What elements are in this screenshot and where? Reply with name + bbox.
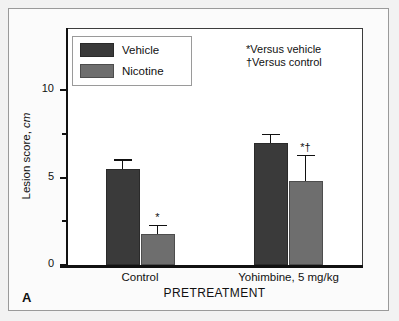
y-axis-unit: cm	[20, 113, 32, 128]
error-bar-cap-vehicle-1	[262, 134, 280, 136]
y-axis-line	[66, 28, 68, 266]
y-tick-5	[60, 177, 67, 179]
x-axis-line	[60, 265, 363, 268]
significance-marker-control: *	[138, 212, 178, 223]
legend-label-vehicle: Vehicle	[122, 43, 159, 57]
error-bar-cap-nicotine-1	[297, 155, 315, 157]
significance-notes: *Versus vehicle †Versus control	[246, 43, 322, 69]
y-axis-title: Lesion score, cm	[20, 81, 32, 231]
legend-swatch-vehicle	[80, 43, 114, 57]
significance-marker-yohimbine: *†	[286, 142, 326, 153]
y-tick-0	[60, 264, 67, 266]
panel-letter: A	[22, 290, 31, 305]
note-versus-vehicle: *Versus vehicle	[246, 43, 322, 56]
x-axis-title: PRETREATMENT	[66, 286, 363, 300]
x-axis-group-label-yohimbine: Yohimbine, 5 mg/kg	[214, 271, 363, 283]
error-bar-cap-nicotine-0	[149, 225, 167, 227]
legend-swatch-nicotine	[80, 64, 114, 78]
bar-nicotine-yohimbine	[289, 181, 323, 265]
y-tick-label-0: 0	[28, 258, 54, 269]
x-axis-group-label-control: Control	[66, 271, 214, 283]
y-axis-title-text: Lesion score,	[20, 131, 32, 199]
legend-label-nicotine: Nicotine	[122, 64, 164, 78]
error-bar-stem-nicotine-1	[305, 155, 307, 181]
y-tick-2.5	[62, 220, 67, 222]
y-tick-10	[60, 89, 67, 91]
error-bar-cap-vehicle-0	[114, 159, 132, 161]
bar-vehicle-control	[106, 169, 140, 265]
y-tick-7.5	[62, 133, 67, 135]
bar-vehicle-yohimbine	[254, 143, 288, 266]
legend-box: Vehicle Nicotine	[72, 36, 192, 86]
note-versus-control: †Versus control	[246, 56, 322, 69]
bar-nicotine-control	[141, 234, 175, 266]
figure-panel: 0510 Lesion score, cm **† Control Yohimb…	[0, 0, 399, 321]
